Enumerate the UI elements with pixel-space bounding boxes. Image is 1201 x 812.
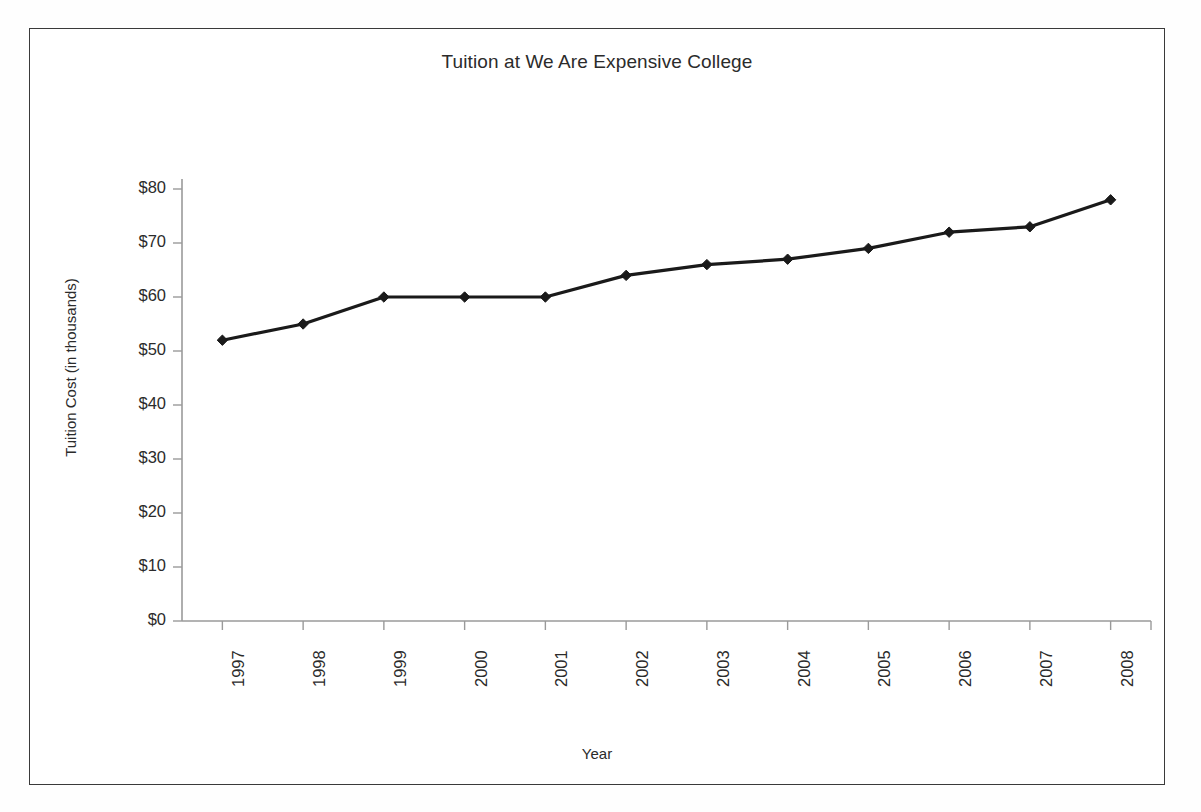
data-point-marker bbox=[1105, 195, 1115, 205]
data-point-marker bbox=[944, 227, 954, 237]
series-line bbox=[222, 200, 1110, 340]
line-plot bbox=[30, 29, 1166, 786]
axes-group bbox=[173, 179, 1151, 630]
chart-frame: Tuition at We Are Expensive College Tuit… bbox=[29, 28, 1165, 785]
data-point-marker bbox=[298, 319, 308, 329]
data-point-marker bbox=[379, 292, 389, 302]
data-point-marker bbox=[1025, 222, 1035, 232]
data-point-marker bbox=[459, 292, 469, 302]
data-point-marker bbox=[217, 335, 227, 345]
data-point-marker bbox=[702, 259, 712, 269]
data-point-marker bbox=[863, 243, 873, 253]
data-point-marker bbox=[540, 292, 550, 302]
data-series-group bbox=[222, 200, 1110, 340]
scanned-page: Tuition at We Are Expensive College Tuit… bbox=[0, 0, 1201, 812]
data-point-marker bbox=[782, 254, 792, 264]
data-point-marker bbox=[621, 270, 631, 280]
